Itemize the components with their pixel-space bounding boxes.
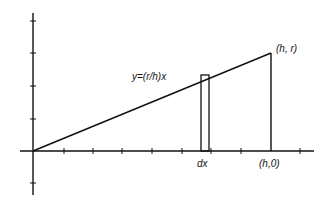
equation-label: y=(r/h)x xyxy=(132,72,166,82)
slope-line xyxy=(33,53,271,151)
line-graph-diagram xyxy=(0,0,328,206)
point-label-h-0: (h,0) xyxy=(259,159,280,169)
point-label-h-r: (h, r) xyxy=(276,44,297,54)
slice-rectangle-dx xyxy=(201,75,209,151)
dx-label: dx xyxy=(197,159,208,169)
